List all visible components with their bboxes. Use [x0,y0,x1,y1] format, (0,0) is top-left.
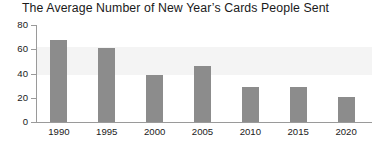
y-axis-tick-label: 40 [4,69,28,79]
chart-title: The Average Number of New Year’s Cards P… [22,0,372,17]
chart-screenshot: The Average Number of New Year’s Cards P… [0,0,384,142]
x-axis-tick-label: 2000 [135,126,175,138]
y-axis-tick-label: 0 [4,117,28,127]
y-axis-line [36,25,37,123]
y-axis-tick [31,49,36,50]
bar-1990 [50,40,67,122]
x-axis-tick-label: 1990 [39,126,79,138]
plot-area [37,25,372,122]
x-axis-tick-label: 2020 [326,126,366,138]
y-axis-tick-label: 60 [4,44,28,54]
x-axis-tick-label: 1995 [87,126,127,138]
bar-2005 [194,66,211,122]
y-axis-tick [31,25,36,26]
x-axis-line [36,122,372,123]
bar-2020 [338,97,355,122]
bar-1995 [98,48,115,122]
bar-2010 [242,87,259,122]
bar-2015 [290,87,307,122]
y-axis-tick [31,74,36,75]
y-axis-tick-label: 20 [4,93,28,103]
x-axis-tick-label: 2005 [183,126,223,138]
y-axis-tick-label: 80 [4,20,28,30]
y-axis-tick [31,122,36,123]
bar-2000 [146,75,163,122]
x-axis-tick-label: 2010 [230,126,270,138]
y-axis-tick [31,98,36,99]
x-axis-tick-label: 2015 [278,126,318,138]
